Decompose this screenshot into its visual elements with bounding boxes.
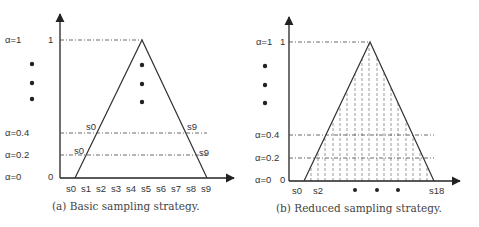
svg-text:s7: s7 [171, 183, 181, 194]
ellipsis-dot [353, 188, 357, 192]
ellipsis-dot [140, 100, 144, 104]
y-tick-1: 1 [280, 36, 285, 47]
alpha-label-04: α=0.4 [5, 127, 29, 138]
triangle-membership [75, 40, 207, 178]
ellipsis-dot [30, 81, 34, 85]
cut-label-left-02: s0 [74, 145, 84, 156]
y-tick-1: 1 [48, 34, 53, 45]
svg-text:s3: s3 [111, 183, 121, 194]
ellipsis-dot [375, 188, 379, 192]
ellipsis-dot [140, 63, 144, 67]
ellipsis-dot [263, 83, 267, 87]
alpha-label-02: α=0.2 [255, 152, 279, 163]
sampling-strategy-figure: α=1 1 α=0.4 α=0.2 α=0 0 s0 s9 s0 s9 s0 s… [0, 0, 479, 227]
x-label-s2: s2 [313, 185, 323, 196]
svg-text:s6: s6 [156, 183, 166, 194]
panel-b: α=1 1 α=0.4 α=0.2 α=0 0 s0 s2 s18 (b) Re… [255, 17, 460, 214]
sample-grid-lines [304, 42, 427, 181]
x-tick-labels: s0 s1 s2 s3 s4 s5 s6 s7 s8 s9 [66, 183, 211, 194]
ellipsis-dot [263, 64, 267, 68]
svg-text:s4: s4 [126, 183, 136, 194]
svg-text:s8: s8 [186, 183, 196, 194]
cut-label-right-04: s9 [187, 121, 197, 132]
svg-text:s9: s9 [201, 183, 211, 194]
ellipsis-dot [396, 188, 400, 192]
alpha-label-04: α=0.4 [255, 129, 279, 140]
ellipsis-dot [140, 82, 144, 86]
svg-text:s2: s2 [96, 183, 106, 194]
cut-label-right-02: s9 [199, 147, 209, 158]
alpha-label-0: α=0 [255, 174, 271, 185]
panel-a: α=1 1 α=0.4 α=0.2 α=0 0 s0 s9 s0 s9 s0 s… [5, 14, 234, 212]
caption-a: (a) Basic sampling strategy. [52, 200, 200, 212]
caption-b: (b) Reduced sampling strategy. [276, 202, 442, 214]
svg-text:s5: s5 [141, 183, 151, 194]
svg-text:s0: s0 [66, 183, 76, 194]
cut-label-left-04: s0 [86, 121, 96, 132]
x-label-s0: s0 [292, 185, 302, 196]
ellipsis-dot [30, 62, 34, 66]
svg-text:s1: s1 [81, 183, 91, 194]
ellipsis-dot [30, 97, 34, 101]
ellipsis-dot [263, 101, 267, 105]
alpha-label-1: α=1 [5, 34, 21, 45]
x-label-s18: s18 [429, 185, 444, 196]
alpha-label-1: α=1 [256, 36, 272, 47]
y-tick-0: 0 [280, 174, 285, 185]
alpha-label-0: α=0 [5, 171, 21, 182]
alpha-label-02: α=0.2 [5, 149, 29, 160]
y-tick-0: 0 [48, 171, 53, 182]
